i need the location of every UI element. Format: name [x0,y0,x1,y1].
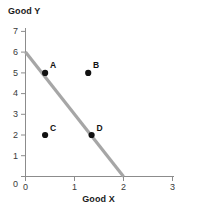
x-tick-label-0: 0 [19,182,33,192]
data-point-label-b: B [93,60,99,70]
y-tick-label-4: 4 [4,88,18,98]
data-point-d [89,132,95,138]
data-point-b [85,70,91,76]
x-tick-label-2: 2 [117,182,131,192]
x-axis-ticks [26,177,173,182]
scatter-chart-figure: Good Y [0,0,197,213]
x-tick-label-3: 3 [166,182,180,192]
y-tick-label-5: 5 [4,68,18,78]
y-tick-label-3: 3 [4,109,18,119]
y-tick-label-0: 0 [4,179,18,189]
x-axis-title: Good X [0,194,197,204]
y-tick-label-1: 1 [4,151,18,161]
data-point-label-c: C [50,123,56,133]
budget-constraint-line [26,52,124,176]
y-tick-label-6: 6 [4,47,18,57]
x-tick-label-1: 1 [68,182,82,192]
data-point-a [42,70,48,76]
data-point-c [42,132,48,138]
y-tick-label-2: 2 [4,130,18,140]
data-point-label-d: D [97,123,103,133]
y-tick-label-7: 7 [4,26,18,36]
data-point-label-a: A [50,60,56,70]
